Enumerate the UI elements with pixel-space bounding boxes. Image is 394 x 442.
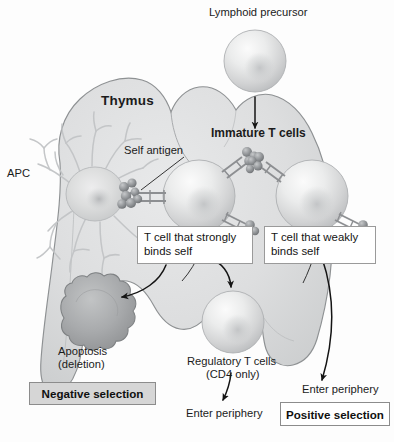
lymphoid-precursor-label: Lymphoid precursor bbox=[209, 6, 307, 19]
thymus-label: Thymus bbox=[101, 93, 154, 109]
apoptosis-label-line2: (deletion) bbox=[58, 358, 105, 371]
regulatory-t-cell bbox=[202, 291, 264, 353]
lymphoid-precursor-cell bbox=[224, 30, 286, 92]
figure-canvas: Lymphoid precursor Thymus Immature T cel… bbox=[0, 0, 394, 442]
enter-periphery-label-right: Enter periphery bbox=[302, 383, 379, 396]
regulatory-t-cells-label-line1: Regulatory T cells bbox=[187, 355, 276, 368]
apoptosis-label-line1: Apoptosis bbox=[58, 345, 107, 358]
negative-selection-box: Negative selection bbox=[29, 382, 156, 405]
strong-binder-callout: T cell that strongly binds self bbox=[137, 226, 253, 264]
apoptotic-cell bbox=[61, 273, 136, 350]
regulatory-t-cells-label-line2: (CD4 only) bbox=[206, 368, 259, 381]
enter-periphery-label-left: Enter periphery bbox=[186, 407, 263, 420]
diagram-illustration bbox=[0, 0, 394, 442]
positive-selection-box: Positive selection bbox=[280, 402, 390, 426]
weak-binder-callout: T cell that weakly binds self bbox=[264, 226, 376, 264]
immature-t-cells-label: Immature T cells bbox=[211, 126, 306, 140]
apc-label: APC bbox=[7, 167, 30, 180]
self-antigen-label: Self antigen bbox=[124, 144, 183, 157]
